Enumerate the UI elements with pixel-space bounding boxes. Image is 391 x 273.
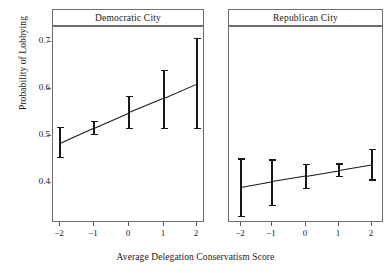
error-bar-cap (369, 149, 376, 150)
y-tick-mark (47, 88, 51, 89)
x-tick-mark (338, 222, 339, 226)
x-tick-mark (93, 222, 94, 226)
error-bar-cap (91, 121, 98, 122)
error-bar-cap (303, 188, 310, 189)
x-tick-mark (59, 222, 60, 226)
x-tick-mark (240, 222, 241, 226)
fit-line-segment (164, 83, 197, 98)
error-bar-cap (303, 164, 310, 165)
error-bar-cap (336, 176, 343, 177)
panel-democratic-city (52, 26, 204, 222)
x-tick-label-2: 2 (362, 229, 380, 238)
error-bar-cap (57, 157, 64, 158)
error-bar-cap (238, 216, 245, 217)
panel-strip-republican-city: Republican City (228, 9, 383, 26)
x-tick-mark (163, 222, 164, 226)
x-tick-mark (196, 222, 197, 226)
y-tick-mark (47, 135, 51, 136)
fit-line-segment (129, 98, 164, 113)
fit-line-segment (272, 176, 306, 183)
error-bar-cap (269, 205, 276, 206)
plot-area-republican-city (229, 27, 382, 221)
fit-line-segment (60, 128, 94, 144)
error-bar-cap (126, 96, 133, 97)
error-bar-cap (194, 38, 201, 39)
error-bar-cap (161, 128, 168, 129)
x-tick-label-2: 2 (187, 229, 205, 238)
error-bar-cap (238, 158, 245, 159)
x-tick-mark (271, 222, 272, 226)
error-bar-cap (269, 159, 276, 160)
x-tick-label--2: −2 (50, 229, 68, 238)
x-tick-label-0: 0 (296, 229, 314, 238)
fit-line-segment (306, 170, 339, 177)
fit-line-segment (94, 112, 129, 128)
fit-line-segment (339, 165, 372, 172)
error-bar-cap (126, 128, 133, 129)
x-tick-mark (305, 222, 306, 226)
panel-strip-democratic-city: Democratic City (52, 9, 204, 26)
fit-line-segment (241, 181, 272, 188)
panel-strip-label: Republican City (273, 13, 338, 23)
x-tick-label-1: 1 (154, 229, 172, 238)
y-axis-title: Probability of Lobbying (18, 0, 28, 143)
x-tick-label--1: −1 (262, 229, 280, 238)
x-tick-label-0: 0 (119, 229, 137, 238)
panel-republican-city (228, 26, 383, 222)
panel-strip-label: Democratic City (95, 13, 161, 23)
error-bar-cap (57, 127, 64, 128)
x-axis-title: Average Delegation Conservatism Score (0, 252, 391, 262)
x-tick-mark (371, 222, 372, 226)
error-bar-cap (194, 128, 201, 129)
error-bar-cap (336, 163, 343, 164)
x-tick-label--2: −2 (231, 229, 249, 238)
x-tick-mark (128, 222, 129, 226)
plot-area-democratic-city (53, 27, 203, 221)
chart-figure: Probability of Lobbying Average Delegati… (0, 0, 391, 273)
error-bar-cap (161, 70, 168, 71)
y-tick-mark (47, 182, 51, 183)
x-tick-label--1: −1 (84, 229, 102, 238)
error-bar-cap (369, 179, 376, 180)
y-tick-mark (47, 41, 51, 42)
x-tick-label-1: 1 (329, 229, 347, 238)
error-bar-cap (91, 134, 98, 135)
